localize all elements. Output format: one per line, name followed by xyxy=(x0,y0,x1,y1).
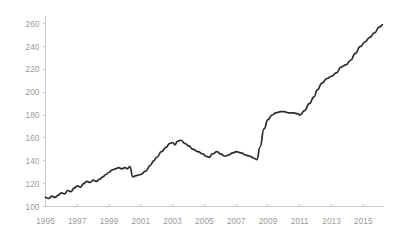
y-axis-tick-label: 120 xyxy=(26,180,40,189)
x-axis-tick-label: 2003 xyxy=(163,217,182,226)
x-axis-tick-label: 2009 xyxy=(259,217,278,226)
y-axis-tick-label: 220 xyxy=(26,65,40,74)
y-axis-labels: 100120140160180200220240260 xyxy=(26,20,40,212)
x-axis-tick-label: 2001 xyxy=(132,217,151,226)
x-axis-tick-label: 2011 xyxy=(291,217,309,226)
x-axis-tick-label: 1999 xyxy=(100,217,119,226)
y-axis-tick-label: 160 xyxy=(26,134,40,143)
y-axis-tick-label: 260 xyxy=(26,20,40,29)
line-chart: 100120140160180200220240260 199519971999… xyxy=(0,0,396,247)
y-axis-tick-label: 200 xyxy=(26,88,40,97)
y-axis-tick-label: 240 xyxy=(26,43,40,52)
y-axis-tick-label: 140 xyxy=(26,157,40,166)
x-axis-tick-label: 2007 xyxy=(227,217,246,226)
x-axis-tick-label: 1995 xyxy=(36,217,55,226)
y-axis-tick-label: 100 xyxy=(26,203,40,212)
x-axis-tick-label: 2013 xyxy=(322,217,341,226)
chart-canvas: 100120140160180200220240260 199519971999… xyxy=(0,0,396,247)
data-series-line xyxy=(46,25,383,199)
x-axis-tick-label: 1997 xyxy=(68,217,87,226)
x-axis-labels: 1995199719992001200320052007200920112013… xyxy=(36,217,373,226)
y-axis-tick-label: 180 xyxy=(26,111,40,120)
x-axis-tick-label: 2015 xyxy=(354,217,373,226)
x-axis-tick-label: 2005 xyxy=(195,217,214,226)
